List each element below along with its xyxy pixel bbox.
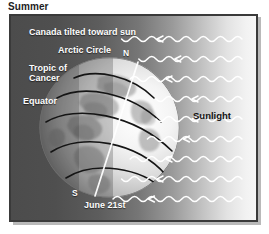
scene-background: Canada tilted toward sun Arctic Circle T…: [11, 16, 256, 220]
figure-stage: Summer: [0, 0, 269, 234]
label-north-pole: N: [123, 49, 129, 58]
label-canada-tilted: Canada tilted toward sun: [29, 28, 136, 38]
label-sunlight: Sunlight: [193, 111, 231, 121]
label-arctic-circle: Arctic Circle: [58, 46, 111, 56]
label-tropic-of-cancer-line2: Cancer: [29, 74, 67, 84]
label-tropic-of-cancer: Tropic of Cancer: [29, 64, 67, 83]
label-date: June 21st: [84, 201, 126, 211]
figure-frame: Canada tilted toward sun Arctic Circle T…: [9, 14, 258, 222]
label-equator: Equator: [23, 97, 57, 107]
sun-ray: [122, 36, 242, 42]
page-title: Summer: [8, 1, 49, 12]
label-south-pole: S: [72, 189, 78, 198]
